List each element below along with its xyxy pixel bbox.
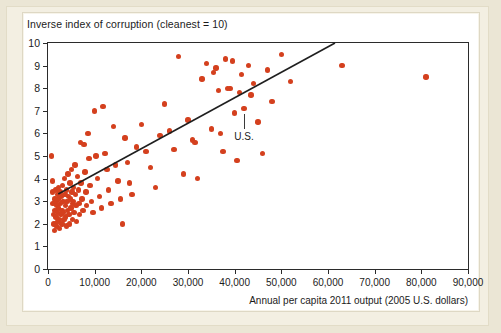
y-axis-tick: [43, 133, 48, 134]
annotation-layer: U.S.: [48, 43, 468, 269]
x-axis-tick: [95, 269, 96, 274]
y-axis-tick: [43, 66, 48, 67]
y-axis-tick: [43, 179, 48, 180]
chart-title: Inverse index of corruption (cleanest = …: [27, 18, 228, 30]
x-axis-tick-label: 80,000: [406, 277, 437, 288]
y-axis-tick: [43, 88, 48, 89]
x-axis-tick: [328, 269, 329, 274]
y-axis-tick-label: 1: [34, 240, 40, 252]
y-axis-tick: [43, 201, 48, 202]
x-axis-tick-label: 30,000: [173, 277, 204, 288]
x-axis-tick: [235, 269, 236, 274]
x-axis-tick-label: 50,000: [266, 277, 297, 288]
figure-root: Inverse index of corruption (cleanest = …: [0, 0, 501, 333]
x-axis-tick-label: 10,000: [79, 277, 110, 288]
y-axis-tick-label: 9: [34, 60, 40, 72]
x-axis-tick: [188, 269, 189, 274]
y-axis-tick-label: 7: [34, 105, 40, 117]
y-axis-tick-label: 8: [34, 82, 40, 94]
x-axis-tick-label: 20,000: [126, 277, 157, 288]
x-axis-tick-label: 90,000: [453, 277, 484, 288]
y-axis-tick-label: 6: [34, 127, 40, 139]
y-axis-tick-label: 5: [34, 150, 40, 162]
y-axis-tick: [43, 111, 48, 112]
us-leader-line: [244, 114, 245, 130]
y-axis-tick-label: 10: [28, 37, 40, 49]
x-axis-tick: [421, 269, 422, 274]
x-axis-tick-label: 40,000: [219, 277, 250, 288]
x-axis-tick-label: 70,000: [359, 277, 390, 288]
x-axis-tick: [468, 269, 469, 274]
y-axis-tick-label: 0: [34, 263, 40, 275]
x-axis-title: Annual per capita 2011 output (2005 U.S.…: [249, 295, 468, 306]
y-axis-tick-label: 4: [34, 173, 40, 185]
x-axis-tick: [375, 269, 376, 274]
y-axis-tick: [43, 224, 48, 225]
y-axis-tick: [43, 43, 48, 44]
y-axis-tick-label: 2: [34, 218, 40, 230]
y-axis-tick: [43, 246, 48, 247]
x-axis-tick-label: 0: [45, 277, 51, 288]
y-axis-tick-label: 3: [34, 195, 40, 207]
x-axis-tick: [281, 269, 282, 274]
us-annotation-label: U.S.: [234, 131, 253, 142]
x-axis-tick: [141, 269, 142, 274]
x-axis-tick: [48, 269, 49, 274]
plot-area: U.S. 012345678910 010,00020,00030,00040,…: [47, 42, 469, 270]
y-axis-tick: [43, 156, 48, 157]
x-axis-tick-label: 60,000: [313, 277, 344, 288]
